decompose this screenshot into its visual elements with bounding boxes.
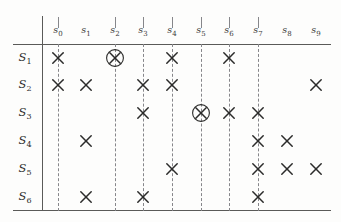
column-header-s7: s7 [253,24,263,38]
row-header-subscript-S6: 6 [26,196,31,205]
row-header-base-S3: S [19,105,27,119]
row-header-S5: S5 [19,161,32,177]
circled-x-mark-S1-s2 [104,47,126,69]
x-mark-S6-s1 [79,190,94,205]
column-header-s8: s8 [282,24,292,38]
x-mark-S2-s0 [51,78,66,93]
row-header-base-S4: S [19,133,27,147]
column-dashed-line-s3 [143,44,144,211]
column-dashed-line-s2 [115,44,116,211]
column-header-subscript-s4: 4 [172,30,177,38]
x-mark-S4-s1 [79,134,94,149]
x-mark-S5-s9 [309,162,324,177]
x-mark-S4-s7 [251,134,266,149]
column-header-subscript-s1: 1 [86,30,91,38]
x-mark-S3-s7 [251,106,266,121]
x-mark-S2-s1 [79,78,94,93]
row-header-S4: S4 [19,133,32,149]
x-mark-S3-s3 [136,106,151,121]
row-header-subscript-S3: 3 [26,112,31,121]
column-header-subscript-s8: 8 [287,30,292,38]
row-header-subscript-S1: 1 [26,57,31,66]
column-header-s1: s1 [81,24,91,38]
row-header-S2: S2 [19,77,32,93]
x-mark-S5-s8 [280,162,295,177]
row-header-S1: S1 [19,50,32,66]
x-mark-S2-s9 [309,78,324,93]
column-header-s0: s0 [53,24,63,38]
column-header-subscript-s9: 9 [316,30,321,38]
row-header-base-S2: S [19,77,27,91]
column-header-s9: s9 [311,24,321,38]
column-header-subscript-s2: 2 [115,30,120,38]
circled-x-mark-S3-s5 [190,102,212,124]
column-header-subscript-s3: 3 [143,30,148,38]
column-header-subscript-s7: 7 [258,30,263,38]
x-mark-S1-s4 [165,51,180,66]
x-mark-S3-s6 [222,106,237,121]
x-mark-S4-s8 [280,134,295,149]
row-header-subscript-S5: 5 [26,168,31,177]
column-dashed-line-s5 [201,44,202,211]
column-header-subscript-s6: 6 [229,30,234,38]
row-label-separator [42,16,43,211]
x-mark-S6-s3 [136,190,151,205]
column-dashed-line-s7 [258,44,259,211]
x-mark-S1-s6 [222,51,237,66]
column-header-s6: s6 [224,24,234,38]
row-header-base-S1: S [19,50,27,64]
row-header-S6: S6 [19,189,32,205]
column-header-s2: s2 [110,24,120,38]
column-header-subscript-s5: 5 [201,30,206,38]
column-dashed-line-s4 [172,44,173,211]
x-mark-S2-s3 [136,78,151,93]
column-header-s4: s4 [167,24,177,38]
row-header-base-S5: S [19,161,27,175]
column-header-s3: s3 [138,24,148,38]
row-header-base-S6: S [19,189,27,203]
column-header-subscript-s0: 0 [58,30,63,38]
row-header-subscript-S4: 4 [26,140,31,149]
incidence-matrix-figure: s0s1s2s3s4s5s6s7s8s9 S1S2S3S4S5S6 [0,0,341,222]
x-mark-S2-s4 [165,78,180,93]
x-mark-S6-s7 [251,190,266,205]
row-header-S3: S3 [19,105,32,121]
x-mark-S5-s7 [251,162,266,177]
x-mark-S1-s0 [51,51,66,66]
column-header-s5: s5 [196,24,206,38]
row-header-subscript-S2: 2 [26,84,31,93]
x-mark-S5-s4 [165,162,180,177]
column-dashed-line-s0 [58,44,59,211]
column-dashed-line-s6 [229,44,230,211]
